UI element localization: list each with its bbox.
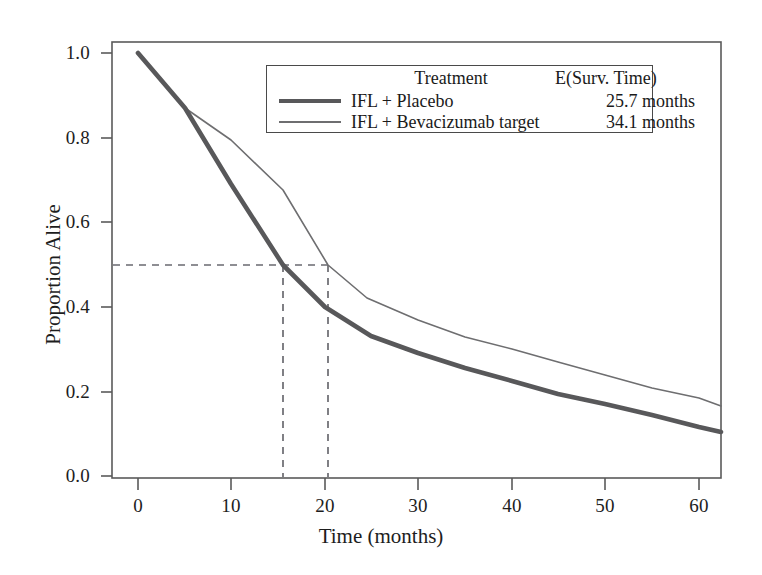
legend-value-placebo: 25.7 months bbox=[606, 91, 695, 112]
x-tick-label-2: 10 bbox=[221, 495, 240, 517]
x-tick-label-1: 0 bbox=[133, 495, 143, 517]
legend-value-bevacizumab: 34.1 months bbox=[606, 112, 695, 133]
x-tick-label-6: 50 bbox=[595, 495, 614, 517]
x-tick-label-4: 30 bbox=[408, 495, 427, 517]
y-axis-ticks bbox=[101, 53, 112, 476]
x-tick-label-3: 20 bbox=[315, 495, 334, 517]
y-tick-label-2: 0.8 bbox=[20, 127, 90, 149]
survival-curve-figure: 1.0 0.8 0.6 0.4 0.2 0.0 0 10 20 30 40 50… bbox=[0, 0, 762, 575]
x-axis-ticks bbox=[138, 478, 699, 490]
legend-label-bevacizumab: IFL + Bevacizumab target bbox=[351, 112, 606, 133]
legend-swatch-bevacizumab-icon bbox=[277, 121, 343, 122]
x-tick-label-7: 60 bbox=[689, 495, 708, 517]
legend-swatch-placebo-icon bbox=[277, 99, 343, 103]
x-tick-label-5: 40 bbox=[502, 495, 521, 517]
legend-label-placebo: IFL + Placebo bbox=[351, 91, 606, 112]
y-tick-label-6: 0.0 bbox=[20, 465, 90, 487]
legend-header-treatment: Treatment bbox=[351, 68, 551, 89]
x-axis-title: Time (months) bbox=[0, 524, 762, 549]
y-tick-label-1: 1.0 bbox=[20, 42, 90, 64]
legend-row-bevacizumab: IFL + Bevacizumab target 34.1 months bbox=[267, 111, 652, 133]
legend-row-placebo: IFL + Placebo 25.7 months bbox=[267, 90, 652, 112]
legend-box: Treatment E(Surv. Time) IFL + Placebo 25… bbox=[266, 65, 653, 133]
legend-header-survival-time: E(Surv. Time) bbox=[555, 68, 657, 89]
median-reference-lines bbox=[113, 265, 330, 477]
y-axis-title: Proportion Alive bbox=[41, 160, 66, 390]
